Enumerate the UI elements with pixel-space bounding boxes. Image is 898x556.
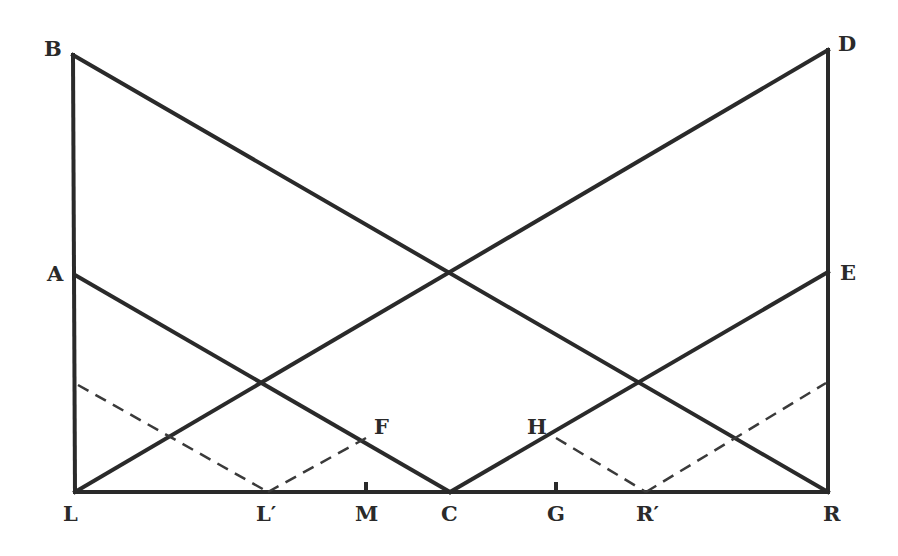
label-C: C [441,503,458,524]
geometry-diagram: B D A E F H L L′ M C G R′ R [0,0,898,556]
label-R-prime: R′ [636,503,659,524]
label-L: L [63,503,78,524]
label-F: F [374,416,389,437]
label-H: H [527,416,547,437]
label-E: E [840,262,856,283]
dashed-Lprime-to-F [268,438,366,492]
label-B: B [44,38,62,59]
label-R: R [823,503,840,524]
label-L-prime: L′ [256,503,276,524]
label-A: A [47,263,63,284]
diagram-lines [0,0,898,556]
dashed-H-to-Rprime [556,438,646,492]
label-M: M [355,503,378,524]
dashed-left-to-Lprime [78,385,268,492]
label-D: D [838,33,856,54]
label-G: G [547,503,565,524]
